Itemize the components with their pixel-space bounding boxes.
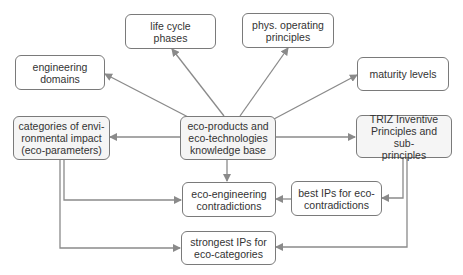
node-engineering-domains: engineering domains (15, 55, 105, 90)
node-eco-engineering-contradictions: eco-engineering contradictions (182, 182, 276, 217)
node-label: maturity levels (369, 68, 436, 80)
node-knowledge-base: eco-products and eco-technologies knowle… (180, 116, 276, 160)
node-label: eco-products and eco-technologies knowle… (187, 120, 268, 156)
edge-kb-to-engineering-domains (105, 74, 190, 118)
node-label: TRIZ Inventive Principles and sub- princ… (360, 113, 448, 161)
node-categories-environmental-impact: categories of envi- ronmental impact (ec… (13, 116, 110, 160)
node-label: strongest IPs for eco-categories (190, 236, 266, 260)
node-strongest-ips: strongest IPs for eco-categories (181, 231, 276, 265)
edge-categories-to-eco-contradictions (64, 159, 181, 200)
node-triz-inventive-principles: TRIZ Inventive Principles and sub- princ… (356, 115, 452, 158)
node-label: life cycle phases (150, 20, 190, 44)
edge-categories-to-strongest-ips (60, 159, 180, 248)
node-label: categories of envi- ronmental impact (ec… (19, 120, 105, 156)
eco-innovation-diagram: life cycle phases phys. operating princi… (0, 0, 463, 275)
node-maturity-levels: maturity levels (357, 57, 449, 91)
node-label: phys. operating principles (252, 19, 324, 43)
node-label: best IPs for eco- contradictions (298, 187, 374, 211)
node-best-ips: best IPs for eco- contradictions (291, 181, 382, 216)
edge-kb-to-phys-principles (240, 48, 288, 116)
node-label: eco-engineering contradictions (191, 188, 266, 212)
edge-triz-to-best-ips (382, 157, 403, 198)
node-phys-operating-principles: phys. operating principles (242, 13, 334, 48)
node-life-cycle-phases: life cycle phases (125, 14, 216, 49)
node-label: engineering domains (33, 61, 88, 85)
edge-kb-to-maturity-levels (274, 75, 357, 119)
edge-kb-to-life-cycle (172, 49, 224, 116)
